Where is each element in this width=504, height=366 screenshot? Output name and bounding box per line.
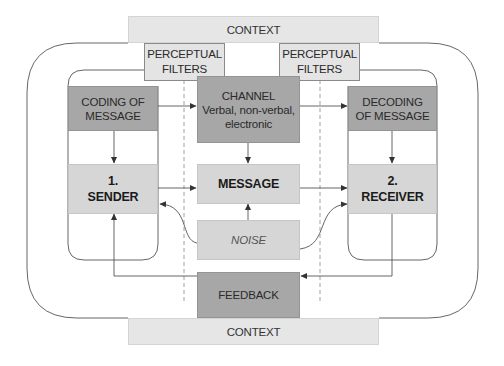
- filter-left-line2: FILTERS: [162, 62, 207, 77]
- noise-label: NOISE: [231, 233, 266, 247]
- context-top-label: CONTEXT: [227, 23, 281, 37]
- channel-title: CHANNEL: [222, 89, 276, 103]
- context-bottom-label: CONTEXT: [227, 325, 281, 339]
- noise-box: NOISE: [197, 220, 300, 260]
- context-bottom: CONTEXT: [128, 318, 379, 345]
- filter-right-line1: PERCEPTUAL: [282, 47, 357, 62]
- communication-diagram: CONTEXT CONTEXT PERCEPTUAL FILTERS PERCE…: [0, 0, 504, 366]
- decoding-line1: DECODING: [362, 95, 422, 109]
- sender-label: SENDER: [88, 189, 139, 205]
- coding-line2: MESSAGE: [85, 109, 140, 123]
- message-label: MESSAGE: [218, 176, 279, 192]
- channel-line3: electronic: [225, 117, 272, 131]
- message-box: MESSAGE: [197, 164, 300, 204]
- receiver-label: RECEIVER: [361, 189, 423, 205]
- feedback-box: FEEDBACK: [197, 272, 300, 318]
- feedback-label: FEEDBACK: [218, 288, 278, 302]
- sender-box: 1. SENDER: [68, 164, 158, 214]
- filter-left-line1: PERCEPTUAL: [147, 47, 222, 62]
- sender-number: 1.: [108, 173, 118, 189]
- coding-of-message-box: CODING OF MESSAGE: [68, 86, 158, 131]
- receiver-box: 2. RECEIVER: [348, 164, 437, 214]
- filter-right-line2: FILTERS: [297, 62, 342, 77]
- channel-box: CHANNEL Verbal, non-verbal, electronic: [197, 76, 300, 143]
- context-top: CONTEXT: [128, 16, 379, 43]
- decoding-line2: OF MESSAGE: [355, 109, 429, 123]
- decoding-of-message-box: DECODING OF MESSAGE: [348, 86, 437, 131]
- receiver-number: 2.: [387, 173, 397, 189]
- coding-line1: CODING OF: [81, 95, 144, 109]
- channel-line2: Verbal, non-verbal,: [202, 103, 295, 117]
